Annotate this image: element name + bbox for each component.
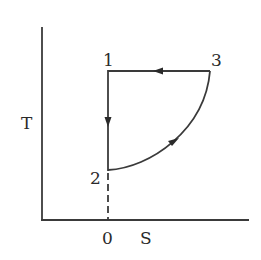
x-axis-label: S xyxy=(140,228,152,248)
path-2-to-3 xyxy=(108,71,210,170)
origin-tick-label: 0 xyxy=(102,228,113,248)
arrow-left-icon xyxy=(153,68,163,75)
point-3-label: 3 xyxy=(211,50,222,70)
y-axis-label: T xyxy=(21,113,33,133)
arrow-down-icon xyxy=(105,117,112,127)
point-1-label: 1 xyxy=(103,50,114,70)
point-2-label: 2 xyxy=(90,168,101,188)
diagram-canvas: T S 0 1 2 3 xyxy=(0,0,261,260)
ts-diagram: T S 0 1 2 3 xyxy=(0,0,261,260)
